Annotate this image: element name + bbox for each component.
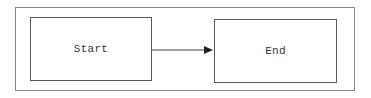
node-end-label: End	[265, 45, 286, 57]
node-start-label: Start	[74, 43, 109, 55]
node-start[interactable]: Start	[30, 17, 152, 81]
node-end[interactable]: End	[214, 19, 337, 83]
